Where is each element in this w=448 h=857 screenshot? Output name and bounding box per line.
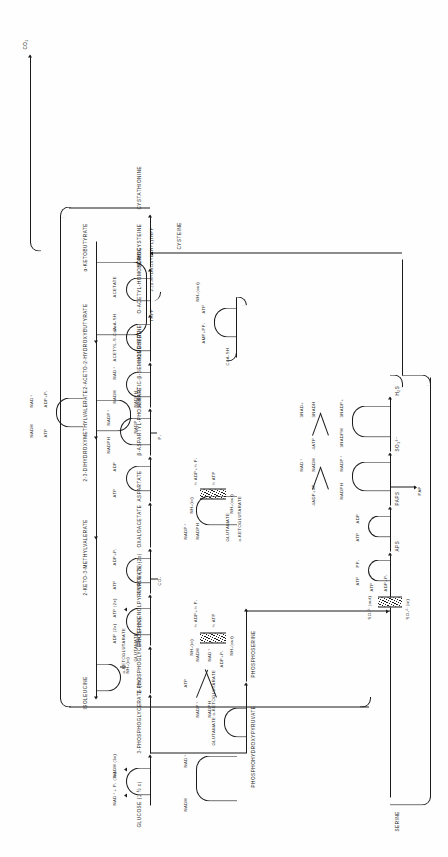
arrowhead <box>124 607 127 611</box>
cofactor-adp: ADP <box>113 461 117 471</box>
node-oxaloacetate: OXALOACETATE <box>138 504 143 547</box>
edge-kmv-dhmv <box>96 437 97 537</box>
node-phosphohydroxypyruvate: PHOSPHOHYDROXYPYRUVATE <box>252 705 257 787</box>
cofactor-bow <box>224 707 247 737</box>
arrowhead <box>388 552 392 555</box>
arrowhead <box>148 502 152 505</box>
node-ketobutyrate: α-KETOBUTYRATE <box>84 223 89 271</box>
edge-pg3-down <box>150 752 246 753</box>
node-isoleucine: ISOLEUCINE <box>84 676 89 709</box>
cofactor-atp: ATP <box>184 678 188 687</box>
cofactor-nadp-plus: NADP⁺ <box>184 523 188 539</box>
cofactor-atp: ATP <box>44 428 48 437</box>
arrowhead <box>124 793 127 797</box>
cofactor-bow <box>196 495 237 525</box>
arrowhead <box>244 682 248 685</box>
node-phosphoserine: PHOSPHOSERINE <box>252 630 257 677</box>
cofactor-thpp: THPP <box>150 308 154 321</box>
cofactor-nadph: NADPH <box>340 482 344 499</box>
pathway-figure: GLUCOSE (1 ½ x) 3-PHOSPHOGLYCERATE (3x) … <box>0 0 448 857</box>
cofactor-glutamate: GLUTAMATE <box>212 716 216 745</box>
cofactor-atp-2x: ATP (2x) <box>113 598 117 617</box>
arrowhead <box>148 548 152 551</box>
cofactor-bow <box>352 405 391 437</box>
cofactor-glutamate: GLUTAMATE <box>134 632 138 661</box>
edge-phpyr-pser <box>246 609 247 681</box>
edge-h2s-serine-to-cysteine <box>402 259 403 375</box>
cofactor-half-atp: ½ ATP <box>212 613 216 627</box>
cofactor-bow <box>56 397 83 427</box>
edge-left-riser <box>69 706 369 707</box>
arrowhead <box>148 754 152 757</box>
cofactor-nadh: NADH <box>312 458 316 471</box>
membrane-band <box>378 596 402 607</box>
cofactor-nh3-in: NH₃(in) <box>190 496 194 513</box>
cofactor-adp: ADP <box>356 513 360 523</box>
node-pap: PAP <box>418 486 422 495</box>
route-corner <box>150 291 161 301</box>
edge-pg3-pg2 <box>150 695 151 753</box>
cofactor-3nadh: 3NADH <box>312 401 316 417</box>
arrowhead <box>94 436 98 439</box>
node-dihydroxymethylvalerate: 2-3-DIHYDROXYMETHYLVALERATE <box>84 389 89 481</box>
cofactor-half-adp-half-pi: ½ ADP+½ P₁ <box>194 457 198 485</box>
cofactor-nad-plus: NAD⁺ <box>300 459 304 471</box>
arrowhead <box>28 54 32 57</box>
node-serine: SERINE <box>396 811 401 831</box>
arrowhead <box>148 456 152 459</box>
edge-pap <box>390 486 416 487</box>
cofactor-bow <box>126 557 151 583</box>
node-sulfate-out: SO₄²⁻(out) <box>368 595 372 619</box>
edge-top-right <box>30 55 31 241</box>
arrowhead <box>148 362 152 365</box>
thpp-bow <box>96 261 147 335</box>
cofactor-nad-plus: NAD⁺ <box>30 395 34 407</box>
arrowhead <box>124 767 127 771</box>
route-corner <box>390 795 431 805</box>
node-keto-methylvalerate: 2-KETO-3-METHYLVALERATE <box>84 519 89 595</box>
cofactor-nh3-out: NH₃(out) <box>230 635 234 655</box>
pathway-canvas: GLUCOSE (1 ½ x) 3-PHOSPHOGLYCERATE (3x) … <box>0 0 448 857</box>
cofactor-nadh: NADH <box>30 424 34 437</box>
arrowhead <box>94 536 98 539</box>
node-homocysteine: HOMOCYSTEINE <box>138 223 143 267</box>
cross-link <box>320 466 329 489</box>
edge-pi <box>150 432 157 433</box>
node-sulfate-in: SO₄²⁻(in) <box>406 598 410 619</box>
cofactor-nad-plus: NAD⁺ <box>113 367 117 379</box>
edge-cysteine-to-cystathionine <box>150 252 346 253</box>
cofactor-3nadph: 3NADPH <box>340 428 344 447</box>
cofactor-atp: ATP <box>113 580 117 589</box>
arrowhead <box>148 214 152 217</box>
cofactor-alpha-ketoglutarate: α-KETOGLUTARATE <box>238 495 242 541</box>
arrowhead <box>388 452 392 455</box>
node-aps: APS <box>396 540 401 551</box>
route-corner <box>236 296 247 305</box>
cofactor-nh3-in: NH₃(in) <box>126 656 130 673</box>
node-paps: PAPS <box>396 491 401 505</box>
cofactor-bow <box>214 307 237 337</box>
arrowhead <box>94 340 98 343</box>
cofactor-atp: ATP <box>356 576 360 585</box>
arrowhead <box>386 609 389 613</box>
cofactor-bow <box>126 465 151 491</box>
cofactor-nh3-in: NH₃(in) <box>190 638 194 655</box>
cofactor-half-adp-half-pi: ½ ADP+½ P₁ <box>194 599 198 627</box>
cofactor-nadph: NADPH <box>208 700 212 717</box>
arrowhead <box>148 694 152 697</box>
cofactor-3nadp-plus: 3NADP+ <box>340 398 344 417</box>
cofactor-bow <box>126 607 151 635</box>
node-cysteine: CYSTEINE <box>178 222 183 249</box>
cofactor-atp: ATP <box>356 532 360 541</box>
arrowhead <box>150 251 153 255</box>
cofactor-bow <box>352 461 391 491</box>
cofactor-bow <box>126 371 151 397</box>
node-aceto-hydroxybutyrate: 2-ACETO-2-HYDROXYBUTYRATE <box>84 303 89 389</box>
route-corner <box>360 696 371 707</box>
arrowhead <box>148 594 152 597</box>
cofactor-bow <box>96 663 121 691</box>
edge-oaa-asp <box>150 503 151 547</box>
arrowhead <box>148 408 152 411</box>
membrane-band <box>200 632 226 643</box>
cofactor-nadp-plus: NADP⁺ <box>134 417 138 433</box>
